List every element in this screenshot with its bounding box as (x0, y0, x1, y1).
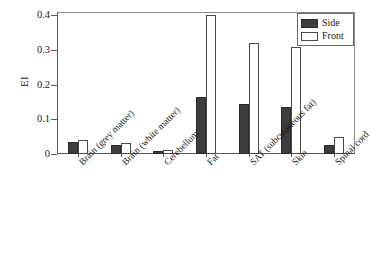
x-category-label: Spinal cord (333, 129, 371, 167)
x-category-label: Skin (290, 148, 309, 167)
x-category-label: Cerebellum (162, 129, 200, 167)
bar-chart: EI 00.10.20.30.4 Brain (grey matter)Brai… (0, 0, 376, 269)
legend-label-side: Side (322, 18, 340, 28)
x-category-label: Fat (205, 151, 221, 167)
legend-item-side: Side (301, 17, 350, 29)
legend-label-front: Front (322, 31, 344, 41)
legend-item-front: Front (301, 30, 350, 42)
chart-legend: Side Front (297, 13, 354, 46)
legend-swatch-side-icon (301, 19, 318, 28)
legend-swatch-front-icon (301, 32, 318, 41)
